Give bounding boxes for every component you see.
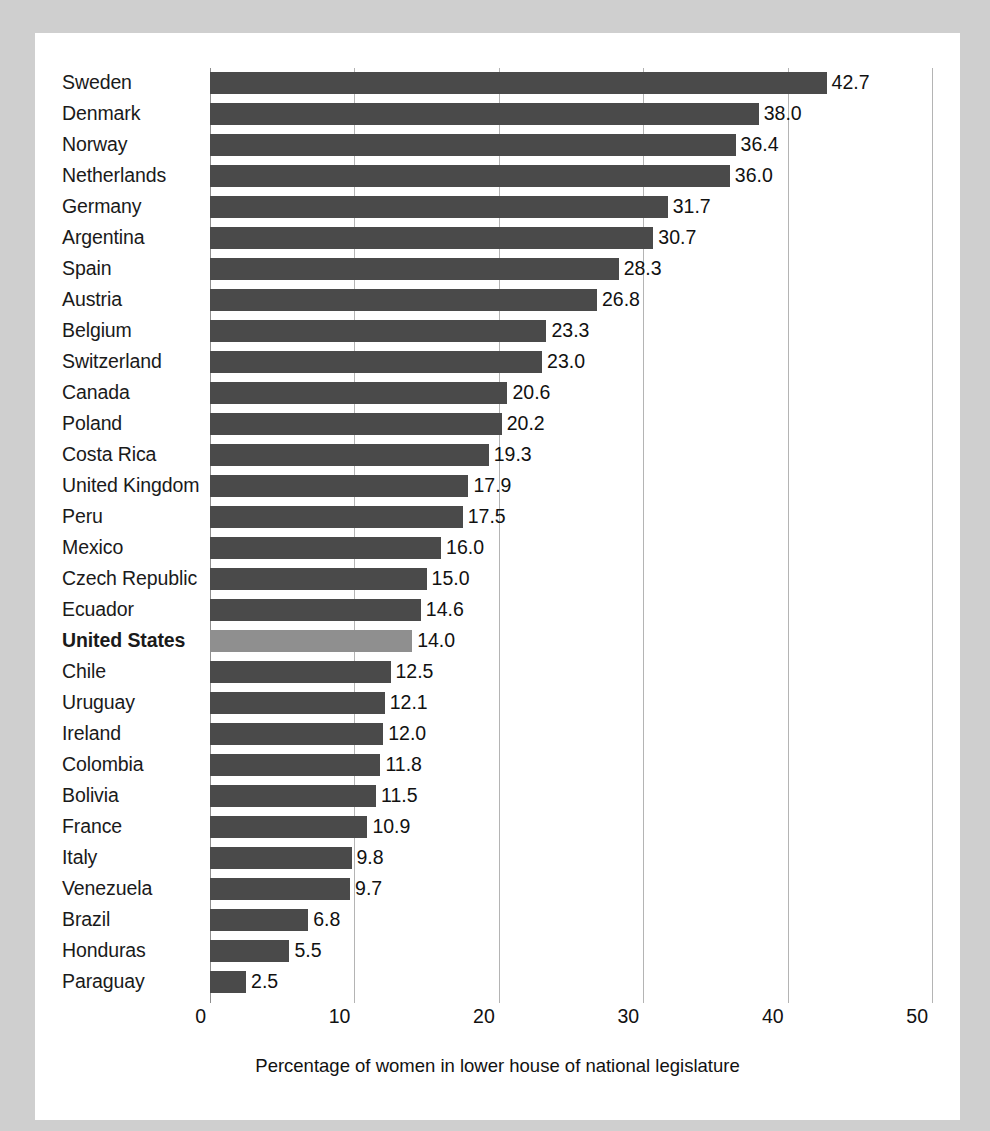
bar-value-label: 11.5: [376, 781, 418, 812]
bar: [210, 971, 246, 993]
bar: [210, 537, 441, 559]
bar-value-label: 20.6: [507, 378, 550, 409]
bar-value-label: 10.9: [367, 812, 410, 843]
bar-track: 5.5: [210, 936, 960, 967]
bar-row: Spain28.3: [35, 254, 960, 285]
bar-value-label: 9.8: [352, 843, 384, 874]
bar-value-label: 12.1: [385, 688, 428, 719]
bar-track: 20.6: [210, 378, 960, 409]
bar-track: 6.8: [210, 905, 960, 936]
category-label: Chile: [62, 657, 106, 688]
bar-value-label: 36.0: [730, 161, 773, 192]
bar: [210, 258, 619, 280]
bar: [210, 351, 542, 373]
category-label: Denmark: [62, 99, 140, 130]
bar-row: Uruguay12.1: [35, 688, 960, 719]
bar-row: Honduras5.5: [35, 936, 960, 967]
bar-value-label: 12.0: [383, 719, 426, 750]
bar-row: Poland20.2: [35, 409, 960, 440]
bar: [210, 444, 489, 466]
x-tick-label: 50: [906, 1005, 932, 1028]
bar-row: Paraguay2.5: [35, 967, 960, 998]
category-label: Venezuela: [62, 874, 152, 905]
category-label: Uruguay: [62, 688, 135, 719]
bar-row: Norway36.4: [35, 130, 960, 161]
bar: [210, 599, 421, 621]
bar: [210, 568, 427, 590]
category-label: Mexico: [62, 533, 123, 564]
bar-value-label: 17.5: [463, 502, 506, 533]
bar-row: Belgium23.3: [35, 316, 960, 347]
bar-track: 19.3: [210, 440, 960, 471]
bar: [210, 134, 736, 156]
bar-track: 38.0: [210, 99, 960, 130]
bar: [210, 227, 653, 249]
bar-value-label: 12.5: [391, 657, 434, 688]
bar: [210, 785, 376, 807]
bar-track: 31.7: [210, 192, 960, 223]
bar-value-label: 38.0: [759, 99, 802, 130]
bar: [210, 165, 730, 187]
bar: [210, 661, 391, 683]
bar-row: Bolivia11.5: [35, 781, 960, 812]
bar-row: United Kingdom17.9: [35, 471, 960, 502]
category-label: Italy: [62, 843, 97, 874]
category-label: Poland: [62, 409, 122, 440]
bar-row: Costa Rica19.3: [35, 440, 960, 471]
bar-track: 14.0: [210, 626, 960, 657]
bar-row: Canada20.6: [35, 378, 960, 409]
bar-track: 30.7: [210, 223, 960, 254]
category-label: United States: [62, 626, 185, 657]
category-label: Belgium: [62, 316, 132, 347]
bar-track: 12.1: [210, 688, 960, 719]
category-label: Switzerland: [62, 347, 162, 378]
bar-value-label: 16.0: [441, 533, 484, 564]
bar: [210, 506, 463, 528]
category-label: Colombia: [62, 750, 144, 781]
bar: [210, 816, 367, 838]
bar-row: France10.9: [35, 812, 960, 843]
bar-track: 20.2: [210, 409, 960, 440]
bar-track: 36.0: [210, 161, 960, 192]
category-label: Bolivia: [62, 781, 119, 812]
bar-value-label: 23.0: [542, 347, 585, 378]
bar-track: 28.3: [210, 254, 960, 285]
bar-value-label: 26.8: [597, 285, 640, 316]
x-axis: 01020304050: [35, 1003, 960, 1043]
bar: [210, 475, 468, 497]
bar: [210, 754, 380, 776]
bar-track: 10.9: [210, 812, 960, 843]
bar-row: Chile12.5: [35, 657, 960, 688]
bar: [210, 413, 502, 435]
bar-track: 23.3: [210, 316, 960, 347]
bar: [210, 847, 352, 869]
x-tick-label: 0: [195, 1005, 210, 1028]
bar-value-label: 19.3: [489, 440, 532, 471]
category-label: Paraguay: [62, 967, 145, 998]
x-axis-title: Percentage of women in lower house of na…: [35, 1055, 960, 1077]
bar-value-label: 14.0: [412, 626, 455, 657]
category-label: Norway: [62, 130, 128, 161]
bar-track: 12.0: [210, 719, 960, 750]
bar-row: Denmark38.0: [35, 99, 960, 130]
bar-track: 17.9: [210, 471, 960, 502]
category-label: Ireland: [62, 719, 121, 750]
category-label: Spain: [62, 254, 111, 285]
bar-track: 11.8: [210, 750, 960, 781]
bar-value-label: 31.7: [668, 192, 711, 223]
bar-value-label: 28.3: [619, 254, 662, 285]
category-label: Brazil: [62, 905, 110, 936]
category-label: Canada: [62, 378, 130, 409]
bar-track: 36.4: [210, 130, 960, 161]
category-label: United Kingdom: [62, 471, 199, 502]
bar-value-label: 30.7: [653, 223, 696, 254]
bar-value-label: 2.5: [246, 967, 278, 998]
bar: [210, 940, 289, 962]
bar: [210, 878, 350, 900]
bar-track: 9.7: [210, 874, 960, 905]
bar: [210, 289, 597, 311]
bar-value-label: 17.9: [468, 471, 511, 502]
category-label: Czech Republic: [62, 564, 197, 595]
bar-row: Sweden42.7: [35, 68, 960, 99]
bar-track: 14.6: [210, 595, 960, 626]
